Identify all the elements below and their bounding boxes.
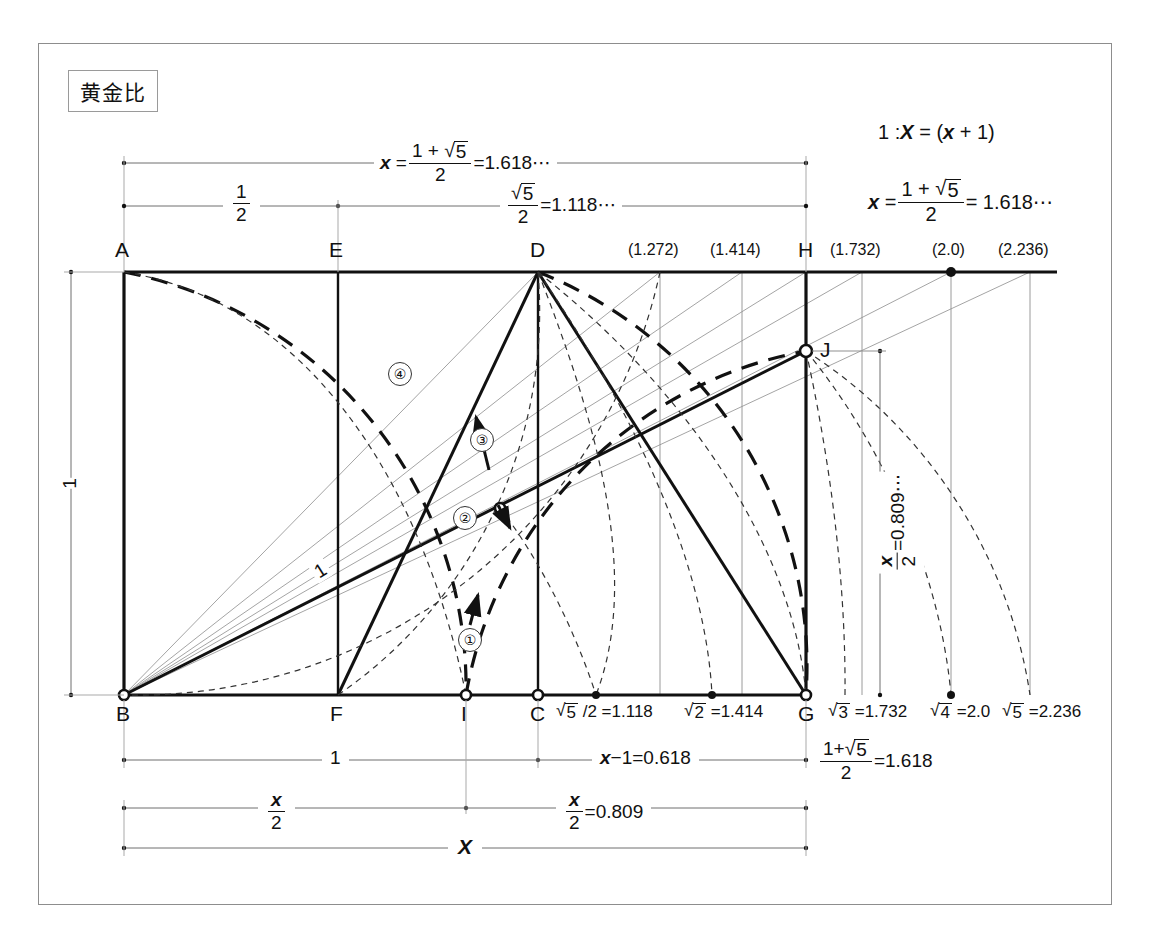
diagram-canvas: 黄金比 xyxy=(0,0,1149,947)
point-label-H: H xyxy=(798,239,813,260)
dim-top-x-value: x = 1 + √5 2 =1.618⋯ xyxy=(374,140,557,185)
bottom-value-root2: √2 =1.414 xyxy=(684,702,763,721)
step-marker-4: ④ xyxy=(388,362,412,386)
top-value-20: (2.0) xyxy=(932,242,965,258)
bottom-value-root3: √3 =1.732 xyxy=(828,702,907,721)
dim-top-half: 12 xyxy=(223,182,260,225)
formula-x-value: x = 1 + √5 2 = 1.618⋯ xyxy=(868,178,1053,225)
point-label-F: F xyxy=(330,703,343,724)
bottom-value-root4: √4 =2.0 xyxy=(930,702,990,721)
top-value-1732: (1.732) xyxy=(830,242,881,258)
dim-top-root5-half: √5 2 =1.118⋯ xyxy=(500,182,622,227)
bottom-value-root5: √5 =2.236 xyxy=(1002,702,1081,721)
dim-left-one: 1 xyxy=(56,478,83,489)
dim-bottom-x-minus-1: x−1=0.618 xyxy=(592,748,699,767)
dim-bottom-x-half-right: x2 =0.809 xyxy=(556,790,651,833)
formula-ratio-definition: 1 : X = ( x + 1) xyxy=(878,122,995,142)
dim-bottom-one: 1 xyxy=(322,748,349,767)
point-label-G: G xyxy=(798,703,814,724)
bottom-value-root5-half: √5 /2 =1.118 xyxy=(556,702,653,721)
point-label-J: J xyxy=(820,339,831,360)
dimension-lines xyxy=(64,156,886,856)
point-label-D: D xyxy=(530,239,545,260)
dim-bottom-x-half-left: x2 xyxy=(258,790,295,833)
top-value-2236: (2.236) xyxy=(998,242,1049,258)
point-label-C: C xyxy=(530,703,545,724)
point-label-E: E xyxy=(329,239,343,260)
step-marker-3: ③ xyxy=(470,428,494,452)
point-label-A: A xyxy=(115,239,129,260)
step-marker-2: ② xyxy=(453,506,477,530)
top-value-1272: (1.272) xyxy=(628,242,679,258)
dim-right-x-half: x2 =0.809⋯ xyxy=(870,471,925,573)
top-value-1414: (1.414) xyxy=(710,242,761,258)
point-label-I: I xyxy=(461,703,467,724)
point-label-B: B xyxy=(116,703,130,724)
dim-bottom-golden: 1+√5 2 =1.618 xyxy=(818,738,933,783)
step-marker-1: ① xyxy=(458,628,482,652)
dim-bottom-total-X: X xyxy=(448,836,482,857)
